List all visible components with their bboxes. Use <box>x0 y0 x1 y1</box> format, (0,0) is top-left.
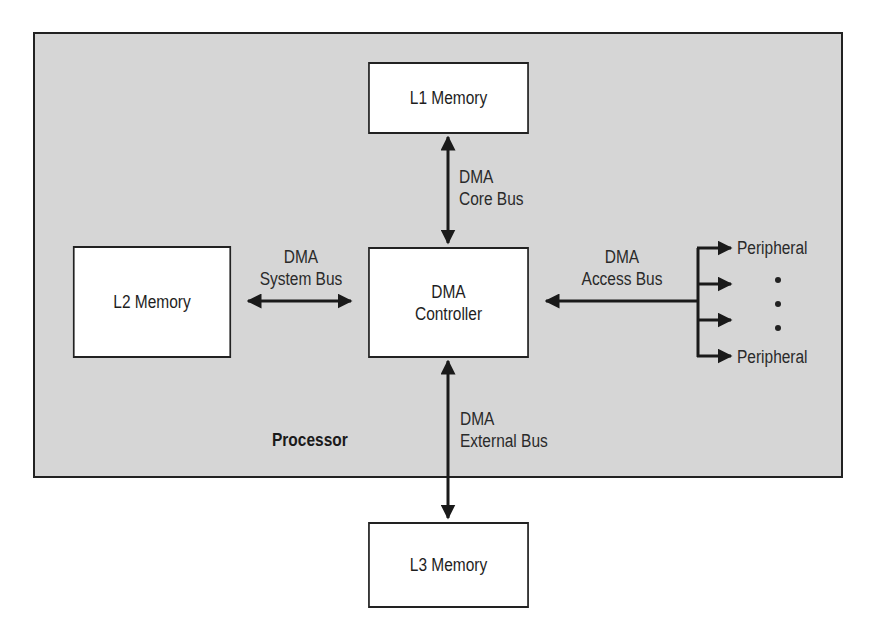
dma-controller-line1: DMA <box>431 281 465 303</box>
access-bus-label: DMA Access Bus <box>579 246 665 290</box>
ellipsis-dot-1 <box>775 277 781 283</box>
ellipsis-dot-3 <box>775 325 781 331</box>
access-bus-line2: Access Bus <box>579 268 665 290</box>
dma-controller-box: DMA Controller <box>368 247 529 358</box>
system-bus-line1: DMA <box>255 246 346 268</box>
core-bus-line1: DMA <box>459 166 524 188</box>
processor-label: Processor <box>272 430 348 451</box>
l2-memory-box: L2 Memory <box>73 246 231 358</box>
l1-memory-box: L1 Memory <box>368 62 529 134</box>
core-bus-line2: Core Bus <box>459 188 524 210</box>
l3-memory-label: L3 Memory <box>410 554 487 576</box>
peripheral-bottom-label: Peripheral <box>737 346 808 368</box>
access-bus-line1: DMA <box>579 246 665 268</box>
l1-memory-label: L1 Memory <box>410 87 487 109</box>
l3-memory-box: L3 Memory <box>368 522 529 608</box>
core-bus-label: DMA Core Bus <box>459 166 524 210</box>
external-bus-line2: External Bus <box>460 430 548 452</box>
ellipsis-dot-2 <box>775 301 781 307</box>
external-bus-label: DMA External Bus <box>460 408 548 452</box>
system-bus-label: DMA System Bus <box>255 246 346 290</box>
l2-memory-label: L2 Memory <box>113 291 190 313</box>
external-bus-line1: DMA <box>460 408 548 430</box>
peripheral-top-label: Peripheral <box>737 237 808 259</box>
dma-controller-line2: Controller <box>415 303 482 325</box>
system-bus-line2: System Bus <box>255 268 346 290</box>
